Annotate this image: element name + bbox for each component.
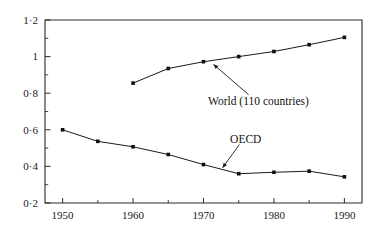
x-tick-label: 1950 — [52, 209, 75, 221]
data-point-marker — [61, 128, 65, 132]
data-point-marker — [307, 169, 311, 173]
data-point-marker — [272, 170, 276, 174]
x-tick-label: 1990 — [333, 209, 356, 221]
data-point-marker — [237, 172, 241, 176]
x-tick-label: 1960 — [122, 209, 145, 221]
data-point-marker — [166, 67, 170, 71]
annotation-label: World (110 countries) — [208, 95, 309, 108]
data-point-marker — [131, 145, 135, 149]
y-tick-label: 1 — [33, 50, 39, 62]
x-tick-label: 1980 — [263, 209, 286, 221]
data-point-marker — [166, 153, 170, 157]
data-point-marker — [237, 55, 241, 59]
data-point-marker — [96, 140, 100, 144]
data-point-marker — [202, 60, 206, 64]
y-tick-label: 0·4 — [23, 160, 38, 172]
chart-figure: 0·20·40·60·811·2 19501960197019801990 Wo… — [0, 0, 381, 235]
annotation-label: OECD — [230, 133, 261, 145]
data-point-marker — [272, 50, 276, 54]
line-chart-canvas: 0·20·40·60·811·2 19501960197019801990 Wo… — [0, 0, 381, 235]
chart-background — [0, 0, 381, 235]
data-point-marker — [343, 175, 347, 179]
y-tick-label: 0·8 — [23, 87, 38, 99]
data-point-marker — [131, 81, 135, 85]
data-point-marker — [202, 163, 206, 167]
y-tick-label: 0·2 — [23, 197, 38, 209]
x-tick-label: 1970 — [193, 209, 216, 221]
y-tick-label: 1·2 — [23, 14, 38, 26]
y-tick-label: 0·6 — [23, 124, 38, 136]
data-point-marker — [307, 43, 311, 47]
data-point-marker — [343, 36, 347, 40]
